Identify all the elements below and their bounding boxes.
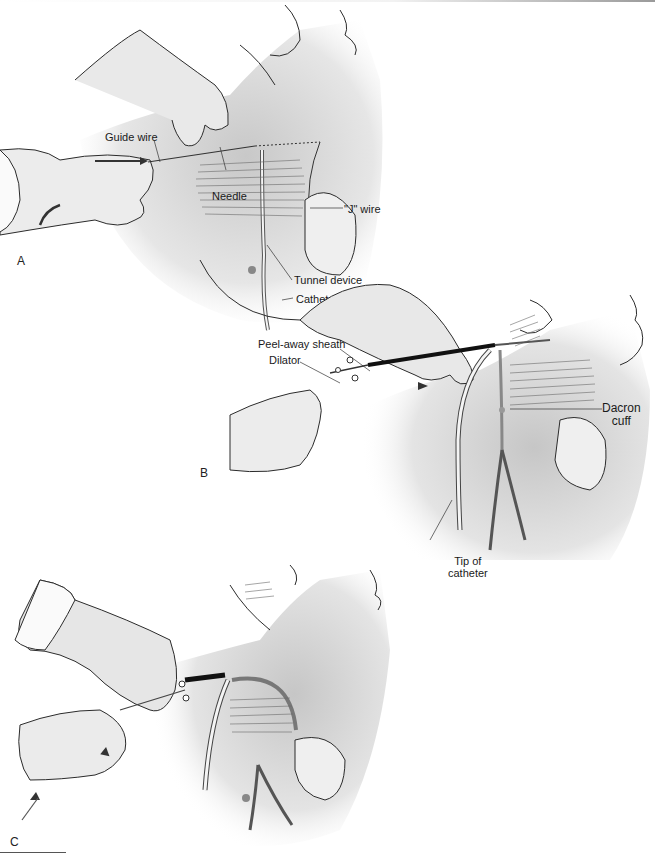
footnote-rule	[0, 852, 66, 853]
label-j-wire: "J" wire	[344, 203, 381, 215]
panel-letter-a: A	[17, 254, 25, 268]
label-tip-line1: Tip of	[448, 555, 488, 567]
label-tip-line2: catheter	[448, 567, 488, 579]
panel-c: C	[0, 560, 400, 857]
label-peel-away-sheath: Peel-away sheath	[258, 338, 345, 350]
panel-c-illustration	[0, 560, 400, 857]
label-dilator: Dilator	[269, 354, 301, 366]
label-dacron-cuff-line2: cuff	[602, 415, 641, 428]
panel-letter-b: B	[200, 466, 208, 480]
label-tip-of-catheter: Tip of catheter	[448, 555, 488, 579]
panel-b: Peel-away sheath Dilator Dacron cuff Tip…	[190, 270, 655, 570]
label-needle: Needle	[212, 190, 247, 202]
label-guide-wire: Guide wire	[105, 131, 158, 143]
label-dacron-cuff: Dacron cuff	[602, 402, 641, 428]
panel-b-illustration	[190, 270, 655, 570]
panel-letter-c: C	[10, 835, 19, 849]
